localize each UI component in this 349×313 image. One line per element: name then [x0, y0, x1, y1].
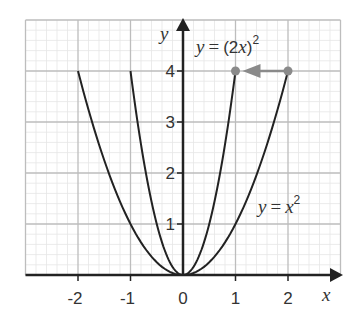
- x-tick-label: 1: [231, 289, 240, 308]
- y-tick-label: 4: [166, 62, 175, 81]
- x-tick-label: 0: [178, 289, 187, 308]
- point-dot: [284, 67, 293, 76]
- y-tick-label: 3: [166, 113, 175, 132]
- x-tick-label: -2: [67, 289, 82, 308]
- y-tick-label: 2: [166, 164, 175, 183]
- x-tick-label: -1: [120, 289, 135, 308]
- arrow-head-icon: [243, 64, 261, 78]
- tick-labels: -2-10121234: [67, 62, 292, 308]
- curve-label-wide: y=x2: [256, 193, 301, 217]
- chart: -2-10121234 x y y=(2x)2 y=x2: [0, 0, 349, 313]
- curve-label-narrow: y=(2x)2: [194, 33, 259, 57]
- y-axis-label: y: [158, 23, 169, 44]
- point-dot: [231, 67, 240, 76]
- x-axis-label: x: [321, 284, 331, 305]
- y-tick-label: 1: [166, 215, 175, 234]
- x-tick-label: 2: [283, 289, 292, 308]
- axes: [26, 18, 344, 282]
